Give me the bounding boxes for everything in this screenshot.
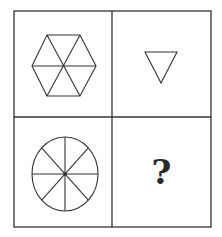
inverted-triangle-icon: [145, 52, 177, 83]
divided-circle-icon: [32, 137, 98, 211]
question-mark: ?: [112, 117, 211, 227]
hexagon-icon: [32, 35, 96, 96]
